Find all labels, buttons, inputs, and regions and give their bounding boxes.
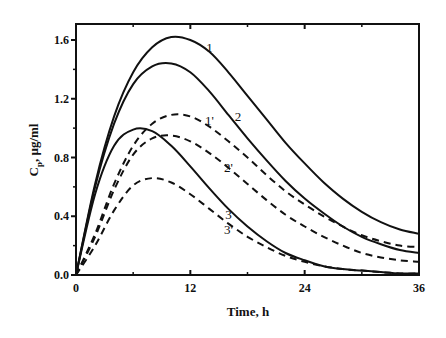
x-tick-label: 0 (73, 281, 79, 295)
curve-label: 1' (205, 113, 214, 128)
curve-label: 3' (224, 222, 233, 237)
y-axis-title-unit: , µg/ml (26, 123, 41, 162)
y-tick-label: 1.2 (54, 92, 69, 106)
curve-label: 3 (225, 207, 232, 222)
curves-layer (76, 37, 419, 275)
curve-3 (76, 128, 419, 275)
y-tick-label: 0.4 (54, 209, 69, 223)
y-tick-label: 0.8 (54, 151, 69, 165)
curve-label: 2 (235, 109, 242, 124)
curve-labels-layer: 1231'2'3' (205, 40, 241, 237)
y-tick-label: 0.0 (54, 268, 69, 282)
x-tick-label: 12 (184, 281, 196, 295)
y-axis-title-main: C (26, 167, 41, 176)
y-axis-title: Cp, µg/ml (26, 123, 44, 176)
curve-label: 2' (224, 160, 233, 175)
y-tick-label: 1.6 (54, 33, 69, 47)
x-tick-label: 24 (299, 281, 311, 295)
x-axis-title: Time, h (227, 304, 270, 319)
pharmacokinetic-line-chart: 1231'2'3' 0122436 0.00.40.81.21.6 Time, … (0, 0, 446, 338)
y-axis: 0.00.40.81.21.6 (54, 33, 76, 282)
curve-label: 1 (206, 40, 213, 55)
x-tick-label: 36 (413, 281, 425, 295)
